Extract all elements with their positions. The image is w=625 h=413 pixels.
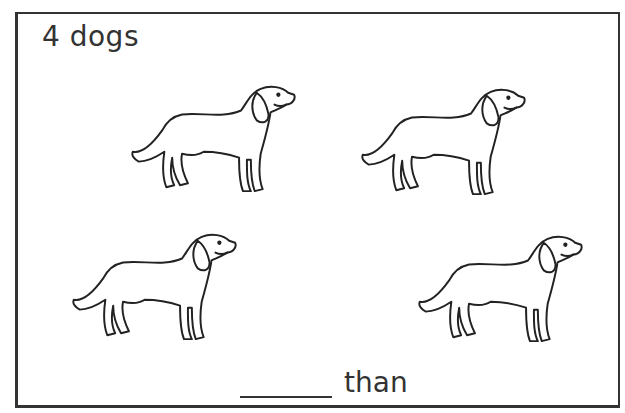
dog-icon	[355, 85, 530, 200]
dog-icon	[66, 230, 241, 345]
worksheet-title: 4 dogs	[42, 20, 139, 53]
comparison-caption: than	[240, 366, 408, 399]
answer-blank[interactable]	[240, 396, 332, 398]
than-label: than	[344, 366, 408, 399]
dog-icon	[412, 232, 587, 347]
worksheet-frame	[15, 12, 620, 408]
dog-icon	[125, 82, 300, 197]
